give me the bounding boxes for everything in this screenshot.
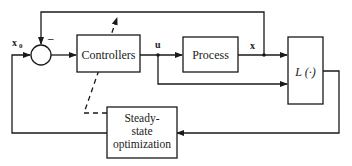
control-branch-dot (156, 53, 160, 57)
optimizer-label-line3: optimization (113, 138, 171, 151)
process-label: Process (192, 48, 229, 62)
setpoint-subscript: 0 (19, 42, 23, 50)
controllers-label: Controllers (82, 48, 136, 62)
setpoint-symbol: x (12, 37, 17, 48)
control-block-diagram: Controllers Process L (·) Steady- state … (0, 0, 352, 166)
loss-label: L (·) (294, 65, 315, 79)
optimizer-label-line2: state (131, 125, 152, 137)
state-signal-label: x (250, 40, 255, 51)
optimizer-label-line1: Steady- (124, 112, 159, 125)
control-signal-label: u (155, 39, 161, 50)
state-branch-dot (262, 53, 266, 57)
feedback-sign: – (47, 32, 54, 44)
summing-junction (31, 45, 51, 65)
